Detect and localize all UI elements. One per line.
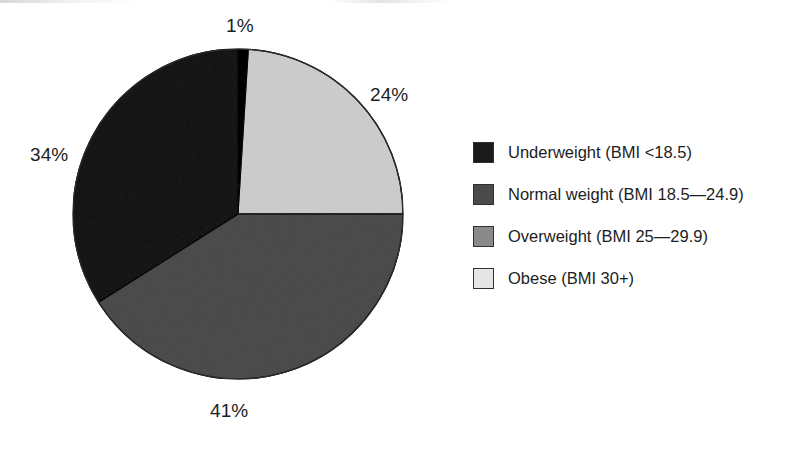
pie-slice-obese	[238, 49, 403, 214]
pie-label-underweight-pct: 1%	[226, 15, 254, 37]
legend-label-normal-weight: Normal weight (BMI 18.5—24.9)	[508, 186, 744, 203]
pie-label-obese-pct: 24%	[370, 84, 408, 106]
legend-swatch-obese	[473, 268, 494, 289]
legend-item-normal-weight: Normal weight (BMI 18.5—24.9)	[473, 173, 773, 215]
pie-svg	[72, 48, 404, 380]
legend-label-obese: Obese (BMI 30+)	[508, 270, 634, 287]
pie-chart-graphic	[72, 48, 404, 380]
scan-artifact	[0, 0, 787, 3]
pie-slices	[73, 49, 403, 379]
pie-label-normal-pct: 34%	[30, 144, 68, 166]
legend-swatch-overweight	[473, 226, 494, 247]
legend: Underweight (BMI <18.5) Normal weight (B…	[473, 131, 773, 299]
pie-label-overweight-pct: 41%	[210, 400, 248, 422]
legend-item-overweight: Overweight (BMI 25—29.9)	[473, 215, 773, 257]
legend-swatch-underweight	[473, 142, 494, 163]
legend-swatch-normal-weight	[473, 184, 494, 205]
legend-label-underweight: Underweight (BMI <18.5)	[508, 144, 692, 161]
legend-item-obese: Obese (BMI 30+)	[473, 257, 773, 299]
legend-label-overweight: Overweight (BMI 25—29.9)	[508, 228, 708, 245]
pie-chart-figure: 1% 24% 41% 34% Underweight (BMI <18.5) N…	[0, 0, 787, 449]
legend-item-underweight: Underweight (BMI <18.5)	[473, 131, 773, 173]
